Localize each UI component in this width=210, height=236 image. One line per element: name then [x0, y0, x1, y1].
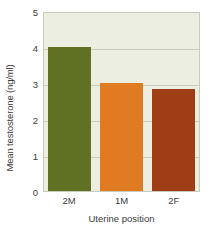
- y-tick-label: 2: [33, 115, 38, 126]
- bar-2m: [48, 47, 91, 191]
- x-axis-tick-labels: 2M 1M 2F: [43, 195, 200, 209]
- bar-1m: [100, 83, 143, 191]
- x-axis-title: Uterine position: [43, 213, 200, 224]
- x-tick-label-2f: 2F: [152, 195, 195, 209]
- y-tick-label: 5: [33, 7, 38, 18]
- y-tick-label: 3: [33, 79, 38, 90]
- bar-2f: [152, 89, 195, 191]
- y-tick-label: 4: [33, 43, 38, 54]
- y-tick-label: 0: [33, 187, 38, 198]
- plot-area: [43, 12, 200, 192]
- bar-chart-figure: Mean testosterone (ng/ml) 5 4 3 2 1 0 2M…: [0, 0, 210, 236]
- y-axis-tick-labels: 5 4 3 2 1 0: [24, 12, 38, 192]
- y-axis-title: Mean testosterone (ng/ml): [0, 0, 18, 236]
- x-tick-label-1m: 1M: [100, 195, 143, 209]
- x-tick-label-2m: 2M: [48, 195, 91, 209]
- bar-series: [44, 13, 199, 191]
- y-tick-label: 1: [33, 151, 38, 162]
